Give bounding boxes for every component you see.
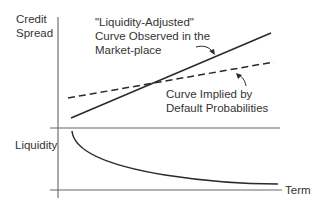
observed-annotation-line3: Market-place — [95, 44, 161, 56]
implied-annotation-line2: Default Probabilities — [166, 102, 268, 114]
x-axis-label-term: Term — [285, 183, 311, 197]
credit-label-line1: Credit — [16, 13, 47, 25]
spread-label-line2: Spread — [16, 27, 53, 39]
y-axis-label-credit-spread: CreditSpread — [16, 12, 53, 40]
observed-annotation-line1: "Liquidity-Adjusted" — [95, 16, 194, 28]
observed-annotation-line2: Curve Observed in the — [95, 30, 210, 42]
y-axis-label-liquidity: Liquidity — [15, 138, 57, 152]
annotation-observed-curve: "Liquidity-Adjusted"Curve Observed in th… — [95, 15, 210, 57]
annotation-implied-curve: Curve Implied byDefault Probabilities — [166, 87, 268, 115]
liquidity-curve — [72, 131, 278, 184]
implied-annotation-line1: Curve Implied by — [166, 88, 252, 100]
